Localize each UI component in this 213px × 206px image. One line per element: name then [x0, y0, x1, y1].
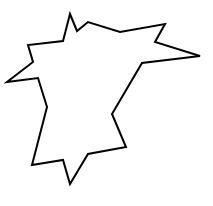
irregular-polygon-outline	[7, 14, 200, 184]
drawing-canvas	[0, 0, 213, 206]
